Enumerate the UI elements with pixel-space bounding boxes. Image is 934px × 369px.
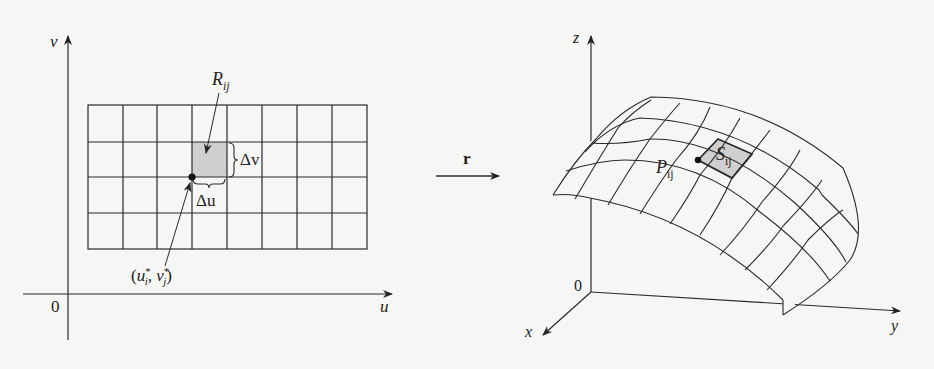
v-axis-label: v bbox=[50, 33, 58, 50]
parametric-surface-diagram: v u 0 Rij Δv Δu (u*i, v*j) r z y x 0 Pij… bbox=[0, 0, 934, 369]
sample-point-label: (u*i, v*j) bbox=[131, 266, 172, 287]
uv-plane bbox=[23, 36, 392, 340]
delta-v-label: Δv bbox=[240, 151, 259, 168]
p-ij-label: Pij bbox=[656, 158, 674, 180]
r-ij-sub: ij bbox=[223, 80, 230, 93]
r-ij-main: R bbox=[212, 69, 223, 89]
paren-close: ) bbox=[166, 266, 172, 285]
x-axis-label: x bbox=[525, 324, 532, 340]
surface-s bbox=[553, 97, 866, 315]
origin-label-uv: 0 bbox=[51, 298, 60, 315]
s-ij-label: Sij bbox=[716, 145, 732, 167]
r-ij-cell bbox=[192, 142, 227, 177]
y-axis bbox=[591, 292, 900, 311]
s-ij-main: S bbox=[716, 144, 725, 164]
delta-u-label: Δu bbox=[196, 192, 215, 209]
delta-v-text: Δv bbox=[240, 150, 259, 169]
mapping-r-label: r bbox=[463, 150, 471, 167]
p-ij-main: P bbox=[656, 157, 667, 177]
sample-point-dot bbox=[188, 173, 195, 180]
y-axis-label: y bbox=[891, 318, 898, 334]
diagram-graphics bbox=[0, 0, 934, 369]
delta-u-brace bbox=[193, 179, 225, 188]
comma: , bbox=[148, 266, 157, 285]
p-ij-sub: ij bbox=[667, 168, 674, 181]
r-ij-label: Rij bbox=[212, 70, 230, 92]
sample-point-pointer bbox=[165, 183, 190, 266]
z-axis-label: z bbox=[573, 30, 579, 46]
delta-v-brace bbox=[229, 143, 238, 177]
s-ij-sub: ij bbox=[725, 155, 732, 168]
origin-label-xyz: 0 bbox=[574, 278, 582, 294]
u-star-main: u bbox=[137, 266, 146, 285]
delta-u-text: Δu bbox=[196, 191, 215, 210]
u-axis-label: u bbox=[380, 298, 389, 315]
x-axis bbox=[543, 292, 591, 335]
point-p-ij bbox=[695, 157, 701, 163]
